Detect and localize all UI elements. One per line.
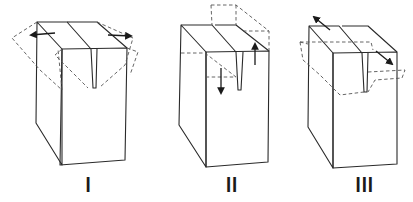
panel-III-box [300, 26, 405, 168]
label-panel-III: III [356, 172, 374, 198]
panel-II-box [179, 5, 269, 167]
label-panel-I: I [86, 172, 92, 198]
label-panel-II: II [226, 172, 238, 198]
arrow-left-icon [31, 33, 55, 35]
fracture-modes-diagram [0, 0, 413, 202]
arrow-up-left-icon [314, 17, 330, 30]
panel-I-box [12, 22, 138, 165]
arrow-down-right-icon [376, 51, 392, 64]
